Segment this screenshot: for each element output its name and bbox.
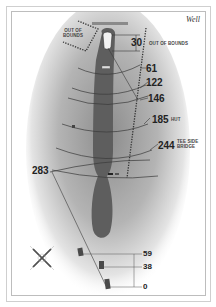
yardage-61: 61 [146,64,157,74]
yardage-244-note: TEE SIDE BRIDGE [177,140,201,149]
hut-marker [72,125,75,128]
tee-yardage-38: 38 [143,263,152,271]
hole-title: Well [186,15,200,24]
bunker [102,66,110,69]
back-hedge [92,22,128,25]
yardage-122: 122 [146,78,163,88]
yardage-283: 283 [32,166,49,176]
yardage-244: 244 [158,141,175,151]
yardage-146: 146 [148,94,165,104]
bridge-marker [108,173,113,175]
green [103,32,112,49]
yardage-185-note: HUT [171,118,181,123]
oob-left-label: OUT OF BOUNDS [62,29,84,38]
tee-yardage-59: 59 [143,250,152,258]
oob-right-label: OUT OF BOUNDS [149,42,188,47]
tee-box-38 [99,261,104,269]
yardage-30: 30 [131,38,142,48]
tee-yardage-0: 0 [143,283,147,291]
bridge-marker-2 [115,173,119,175]
compass-rose [30,246,54,270]
yardage-185: 185 [152,115,169,125]
